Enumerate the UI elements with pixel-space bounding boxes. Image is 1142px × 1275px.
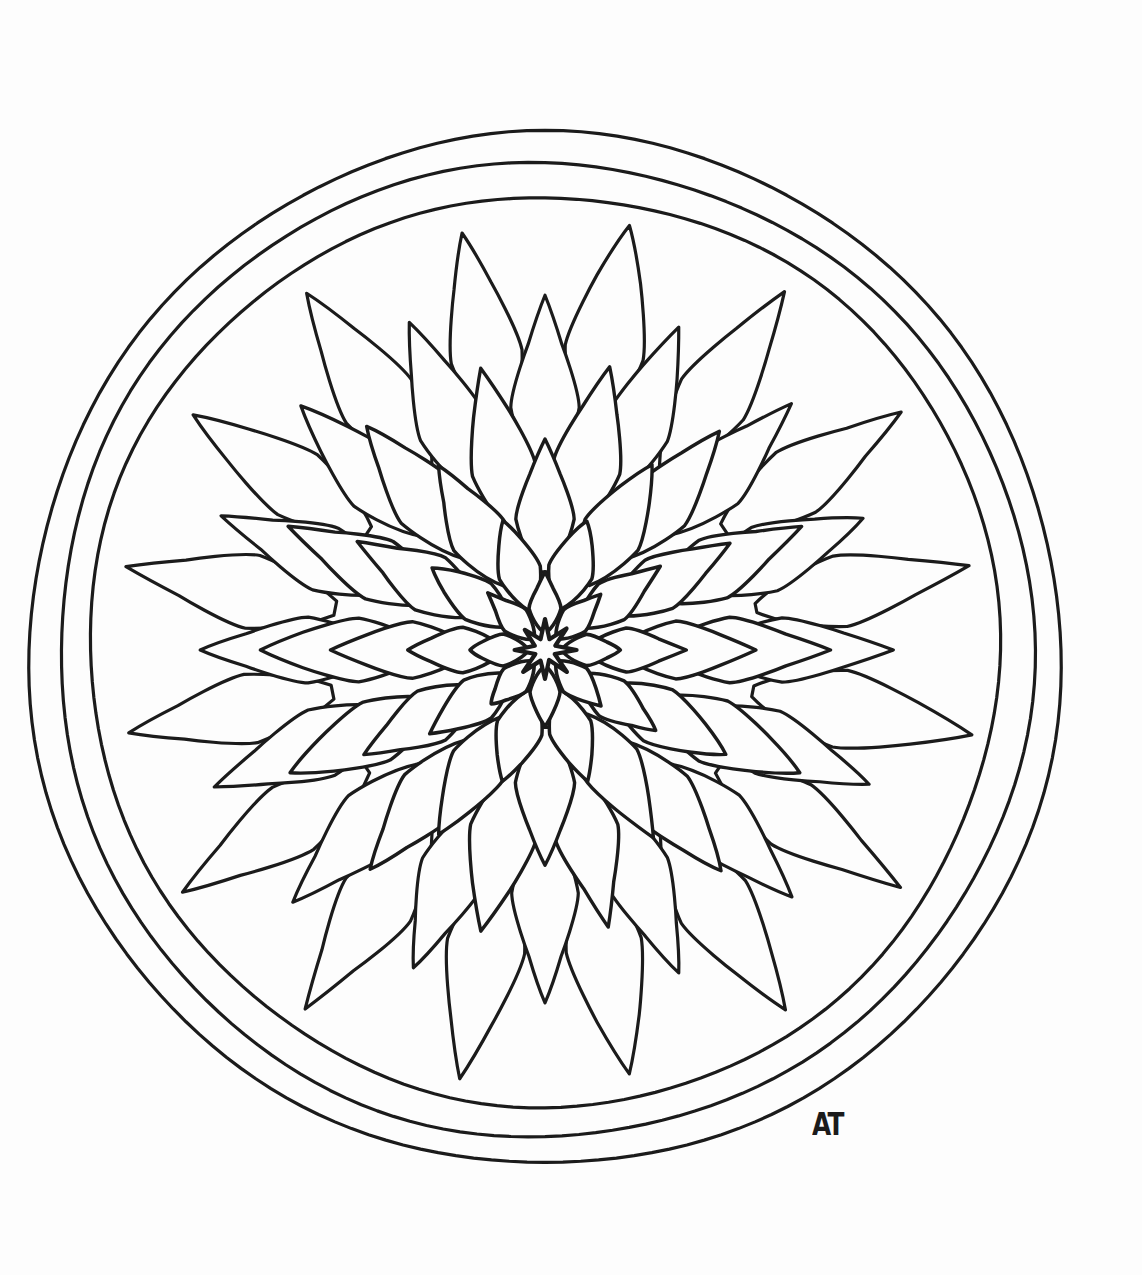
artist-signature: AT bbox=[812, 1106, 843, 1143]
center-star-group bbox=[515, 619, 577, 679]
mandala-artboard bbox=[0, 0, 1142, 1275]
mandala-coloring-page: AT bbox=[0, 0, 1142, 1275]
center-star bbox=[515, 619, 577, 679]
